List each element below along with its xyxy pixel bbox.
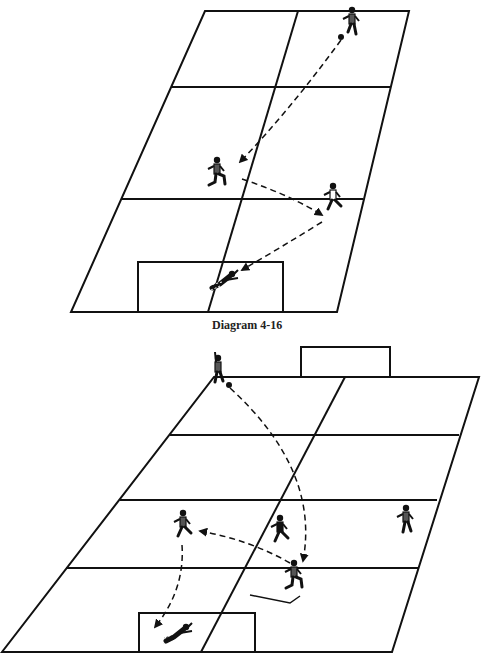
player-torso-icon: [291, 567, 297, 577]
player-icon: [163, 623, 192, 644]
pass-arrow-icon: [155, 545, 182, 627]
diagram-4-17: [2, 347, 479, 652]
player-head-icon: [214, 157, 220, 163]
player-icon: [324, 183, 341, 209]
player-torso-icon: [403, 512, 409, 522]
player-icon: [208, 157, 225, 185]
center-line: [201, 377, 345, 652]
run-line: [250, 595, 300, 603]
player-icon: [174, 510, 191, 536]
center-line: [208, 11, 298, 312]
player-torso-icon: [214, 164, 220, 174]
player-head-icon: [291, 560, 297, 566]
pass-arrow-icon: [242, 179, 322, 215]
player-legs-icon: [178, 527, 191, 536]
player-head-icon: [349, 7, 355, 13]
goal-box-bottom: [139, 613, 255, 652]
player-torso-icon: [330, 190, 336, 200]
ball-icon: [226, 382, 232, 388]
player-head-icon: [277, 515, 283, 521]
diagram-caption-top: Diagram 4-16: [212, 318, 282, 333]
player-head-icon: [403, 505, 409, 511]
player-legs-icon: [328, 200, 341, 209]
player-torso-icon: [215, 362, 221, 372]
player-head-icon: [180, 510, 186, 516]
diagram-4-16: [71, 7, 409, 312]
player-icon: [271, 515, 288, 541]
player-legs-icon: [275, 532, 288, 541]
goal-box-top: [301, 347, 390, 377]
player-legs-icon: [403, 522, 411, 532]
player-legs-icon: [209, 174, 225, 185]
player-legs-icon: [348, 24, 356, 34]
player-torso-icon: [349, 14, 355, 24]
ball-icon: [338, 34, 344, 40]
player-legs-icon: [286, 577, 302, 588]
player-icon: [285, 560, 302, 588]
player-icon: [397, 505, 413, 532]
player-torso-icon: [180, 517, 186, 527]
player-icon: [209, 270, 238, 291]
pass-arrow-icon: [240, 40, 341, 162]
player-head-icon: [330, 183, 336, 189]
field-outline: [71, 11, 409, 312]
player-torso-icon: [277, 522, 283, 532]
